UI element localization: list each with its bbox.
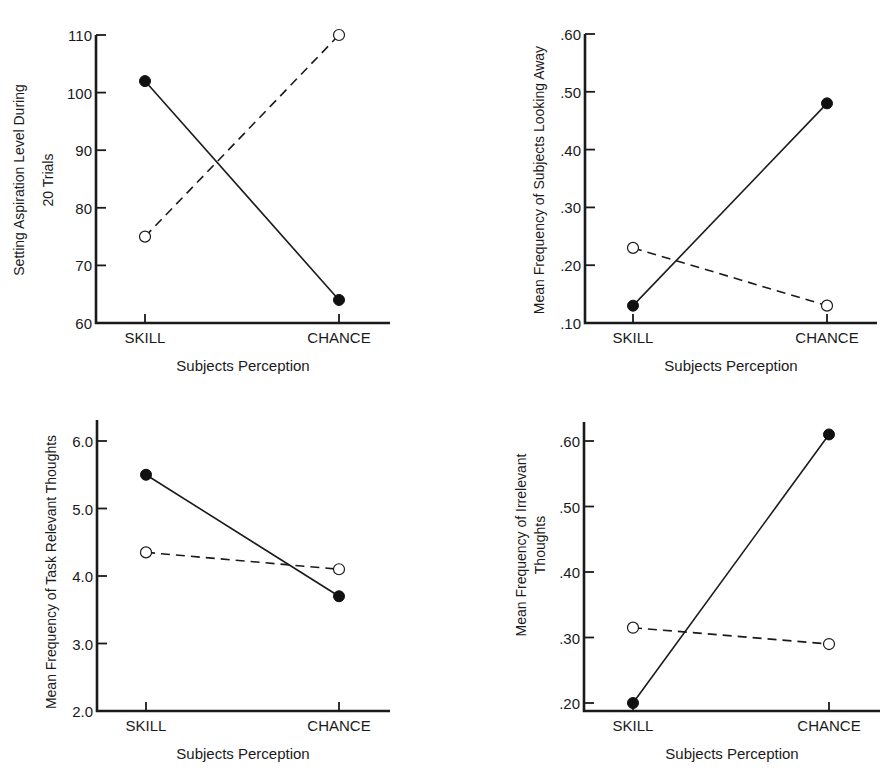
y-axis-label: Mean Frequency of Subjects Looking Away [531,46,547,314]
dashed-series-line [633,248,827,306]
y-tick-label: 4.0 [72,568,93,585]
y-tick-label: 70 [75,257,92,274]
plot-layer: 2.03.04.05.06.0SKILLCHANCE [72,420,390,734]
y-axis-label: Mean Frequency of Irrelevant [513,453,529,636]
x-axis-label: Subjects Perception [176,357,309,374]
axes [97,420,390,711]
x-axis-label: Subjects Perception [664,357,797,374]
x-tick-label-skill: SKILL [126,717,167,734]
y-tick-label: 110 [68,27,92,44]
open-marker [824,639,835,650]
y-tick-label: .50 [559,499,580,516]
x-tick-label-skill: SKILL [613,329,654,346]
solid-series-line [633,434,829,703]
solid-series-line [633,103,827,305]
open-marker [140,231,151,242]
open-marker [334,564,345,575]
open-marker [628,622,639,633]
open-marker [334,30,345,41]
open-marker [822,300,833,311]
plot-layer: 60708090100110SKILLCHANCE [67,27,390,346]
filled-marker [628,698,639,709]
filled-marker [334,591,345,602]
x-tick-label-chance: CHANCE [795,329,858,346]
y-tick-label: 6.0 [72,433,93,450]
x-axis-label: Subjects Perception [176,745,309,762]
x-tick-label-chance: CHANCE [307,329,370,346]
x-axis-label: Subjects Perception [665,745,798,762]
y-tick-label: .50 [560,84,581,101]
y-tick-label: .20 [559,695,580,712]
filled-marker [824,429,835,440]
solid-series-line [146,475,339,597]
y-tick-label: .60 [560,26,581,43]
open-marker [628,242,639,253]
y-axis-label: Setting Aspiration Level During [11,84,27,275]
y-tick-label: 60 [75,315,92,332]
y-tick-label: 100 [67,85,92,102]
y-tick-label: 90 [75,142,92,159]
solid-series-line [145,81,339,300]
x-tick-label-skill: SKILL [613,717,654,734]
x-tick-label-chance: CHANCE [797,717,860,734]
plot-layer: .10.20.30.40.50.60SKILLCHANCE [560,26,877,346]
dashed-series-line [146,552,339,569]
figure: 60708090100110SKILLCHANCE Setting Aspira… [0,0,894,784]
axes [585,34,877,323]
chart-aspiration: 60708090100110SKILLCHANCE Setting Aspira… [11,27,390,374]
chart-task-relevant: 2.03.04.05.06.0SKILLCHANCE Mean Frequenc… [43,420,390,762]
y-axis-label-line2: Thoughts [532,516,548,574]
y-tick-label: .40 [559,564,580,581]
y-tick-label: .60 [559,433,580,450]
y-axis-label-line2: 20 Trials [40,154,56,207]
x-tick-label-chance: CHANCE [307,717,370,734]
y-tick-label: 2.0 [72,703,93,720]
x-tick-label-skill: SKILL [125,329,166,346]
chart-looking-away: .10.20.30.40.50.60SKILLCHANCE Mean Frequ… [531,26,877,374]
dashed-series-line [633,628,829,644]
filled-marker [140,76,151,87]
plot-layer: .20.30.40.50.60SKILLCHANCE [559,422,880,734]
dashed-series-line [145,35,339,237]
filled-marker [628,300,639,311]
filled-marker [334,294,345,305]
y-tick-label: .10 [560,315,581,332]
y-tick-label: .30 [560,199,581,216]
y-tick-label: .40 [560,142,581,159]
filled-marker [141,469,152,480]
y-tick-label: .30 [559,630,580,647]
y-tick-label: 80 [75,200,92,217]
filled-marker [822,98,833,109]
y-tick-label: 3.0 [72,636,93,653]
chart-irrelevant: .20.30.40.50.60SKILLCHANCE Mean Frequenc… [513,422,880,762]
open-marker [141,547,152,558]
y-axis-label: Mean Frequency of Task Relevant Thoughts [43,435,59,709]
y-tick-label: .20 [560,257,581,274]
y-tick-label: 5.0 [72,501,93,518]
